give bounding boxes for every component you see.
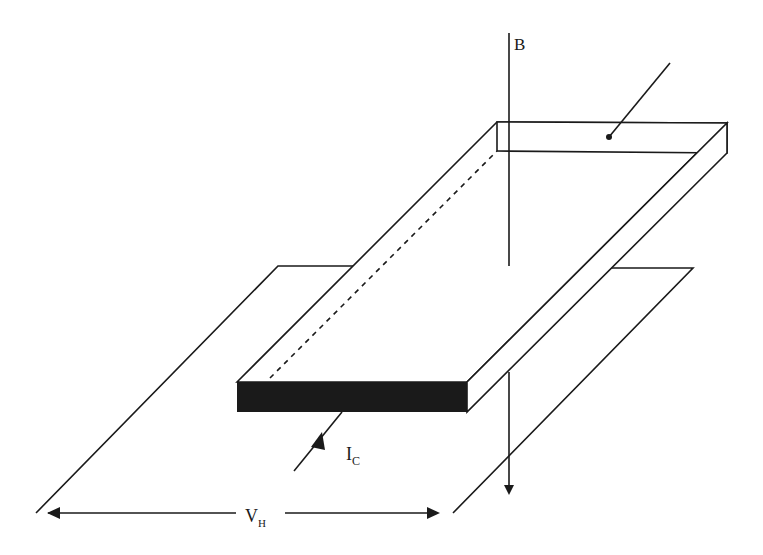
hall-effect-diagram: B IC VH (0, 0, 763, 555)
back-contact-dot (606, 134, 612, 140)
front-face (237, 382, 467, 412)
semiconductor-slab (237, 122, 727, 412)
control-current-label: IC (346, 444, 360, 468)
hall-voltage-arrowhead-left (47, 507, 60, 519)
hall-voltage-label: VH (245, 506, 266, 529)
magnetic-field-label: B (514, 35, 525, 54)
hall-voltage-arrowhead-right (427, 507, 440, 519)
back-face (497, 122, 727, 153)
